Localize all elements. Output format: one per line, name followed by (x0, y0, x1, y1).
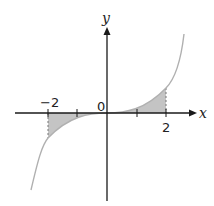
origin-label: 0 (97, 99, 105, 114)
tick-label-neg2: −2 (40, 95, 59, 110)
y-axis-label: y (101, 10, 111, 26)
function-graph: −2 2 0 x y (0, 0, 214, 206)
x-axis-label: x (199, 105, 207, 121)
tick-label-2: 2 (162, 120, 170, 135)
y-axis-arrow-icon (104, 27, 111, 35)
x-axis-arrow-icon (189, 110, 197, 117)
